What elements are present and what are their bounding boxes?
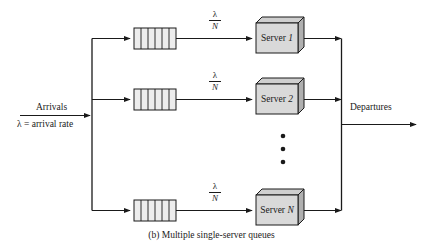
rate-fraction-1: λ N — [203, 10, 227, 31]
rate-numerator-1: λ — [203, 10, 227, 20]
queue-1 — [134, 28, 176, 49]
rate-fraction-n: λ N — [203, 182, 227, 203]
queue-2 — [134, 89, 176, 110]
rate-fraction-2: λ N — [203, 71, 227, 92]
rate-denominator-2: N — [203, 82, 227, 92]
rate-numerator-2: λ — [203, 71, 227, 81]
queueing-diagram: Arrivals λ = arrival rate Departures λ N… — [0, 0, 423, 249]
rate-denominator-n: N — [203, 193, 227, 203]
rate-numerator-n: λ — [203, 182, 227, 192]
server-label-2-prefix: Server — [261, 94, 288, 104]
arrivals-label: Arrivals — [36, 103, 67, 113]
figure-caption: (b) Multiple single-server queues — [0, 231, 423, 241]
server-label-1: Server 1 — [256, 33, 298, 43]
rate-denominator-1: N — [203, 21, 227, 31]
server-label-n-index: N — [287, 205, 293, 215]
arrival-rate-label: λ = arrival rate — [17, 120, 73, 130]
departures-label: Departures — [350, 103, 392, 113]
server-label-n-prefix: Server — [260, 205, 287, 215]
queue-n — [134, 200, 176, 221]
server-label-n: Server N — [256, 205, 298, 215]
server-label-1-prefix: Server — [261, 33, 288, 43]
vertical-ellipsis-icon — [281, 134, 286, 165]
server-label-1-index: 1 — [288, 33, 293, 43]
server-label-2: Server 2 — [256, 94, 298, 104]
server-label-2-index: 2 — [288, 94, 293, 104]
